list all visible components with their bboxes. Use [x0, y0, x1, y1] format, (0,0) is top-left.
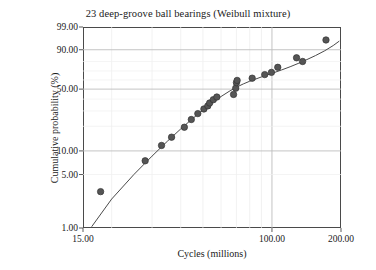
x-tick-label: 15.00: [72, 234, 93, 244]
plot-area: [83, 27, 341, 228]
y-tick-label: 10.00: [36, 146, 78, 156]
y-tick-label: 1.00: [36, 223, 78, 233]
y-axis-label-container: Cumulative probability (%): [28, 27, 29, 228]
x-tick-label: 200.00: [328, 234, 354, 244]
y-tick-label: 5.00: [36, 170, 78, 180]
chart-figure: 23 deep-groove ball bearings (Weibull mi…: [0, 0, 376, 270]
x-axis-label: Cycles (millions): [83, 248, 341, 259]
y-tick-label: 50.00: [36, 84, 78, 94]
y-tick-label: 90.00: [36, 45, 78, 55]
x-tick-label: 100.00: [259, 234, 285, 244]
chart-title: 23 deep-groove ball bearings (Weibull mi…: [0, 8, 376, 19]
y-axis-label: Cumulative probability (%): [49, 43, 60, 213]
y-tick-label: 99.00: [36, 22, 78, 32]
